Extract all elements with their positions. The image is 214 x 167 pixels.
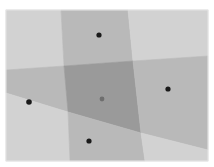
voronoi-diagram bbox=[0, 0, 214, 167]
region-layer bbox=[6, 10, 208, 161]
site-bottom-point bbox=[86, 138, 91, 143]
site-top-point bbox=[96, 32, 101, 37]
corner-top-left-region bbox=[6, 10, 64, 70]
site-right-point bbox=[165, 86, 170, 91]
site-center-point bbox=[100, 97, 105, 102]
band-top-region bbox=[61, 10, 133, 66]
site-left-point bbox=[26, 99, 32, 105]
corner-top-right-region bbox=[128, 10, 208, 61]
